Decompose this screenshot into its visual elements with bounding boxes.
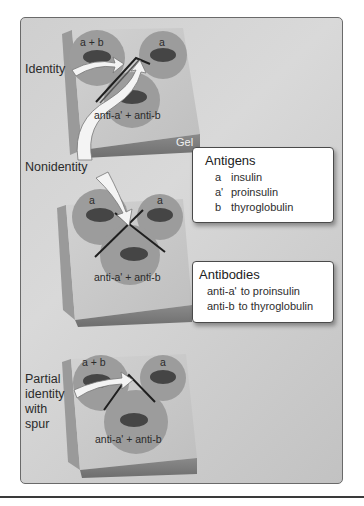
well-label: anti-a' + anti-b	[95, 432, 162, 447]
legend-title: Antigens	[205, 153, 333, 168]
well-label: a	[89, 193, 95, 208]
legend-title: Antibodies	[199, 267, 333, 282]
gel-slab-nonidentity	[57, 172, 192, 327]
panel-label-nonidentity: Nonidentity	[25, 160, 88, 175]
legend-row: a'proinsulin	[215, 186, 333, 198]
legend-row: anti-a'to proinsulin	[207, 285, 333, 297]
gel-slab-partial	[62, 354, 197, 478]
well-label: a	[160, 355, 166, 370]
gel-label: Gel	[176, 135, 193, 150]
divider	[0, 496, 364, 498]
legend-row: bthyroglobulin	[215, 201, 333, 213]
well-label: anti-a' + anti-b	[94, 270, 161, 285]
well-label: a	[159, 35, 165, 50]
well-label: anti-a' + anti-b	[94, 108, 161, 123]
panel-label-partial: Partial identity with spur	[25, 372, 65, 432]
legend-antibodies: Antibodies anti-a'to proinsulin anti-bto…	[192, 261, 334, 323]
panel-label-identity: Identity	[25, 62, 65, 77]
legend-row: ainsulin	[215, 171, 333, 183]
well-label: a	[157, 193, 163, 208]
well-label: a + b	[82, 355, 106, 370]
well-label: a + b	[80, 35, 104, 50]
legend-antigens: Antigens ainsulin a'proinsulin bthyroglo…	[192, 147, 334, 223]
legend-row: anti-bto thyroglobulin	[207, 300, 333, 312]
